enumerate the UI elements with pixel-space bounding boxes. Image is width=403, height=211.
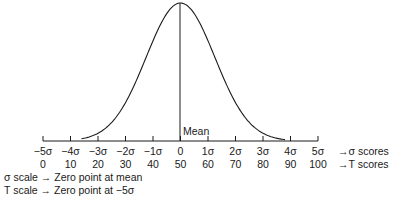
sigma-tick-label: −3σ: [89, 145, 108, 157]
t-tick-label: 20: [92, 158, 104, 170]
sigma-tick-label: −5σ: [34, 145, 53, 157]
t-tick-label: 100: [309, 158, 327, 170]
sigma-tick-label: 5σ: [312, 145, 325, 157]
t-tick-label: 30: [120, 158, 132, 170]
sigma-tick-label: −4σ: [61, 145, 80, 157]
sigma-tick-label: −1σ: [144, 145, 163, 157]
t-axis-label: →T scores: [338, 158, 389, 170]
sigma-tick-label: 2σ: [229, 145, 242, 157]
normal-curve: [82, 3, 286, 140]
t-tick-label: 80: [257, 158, 269, 170]
sigma-tick-label: 1σ: [202, 145, 215, 157]
sigma-tick-label: −2σ: [116, 145, 135, 157]
t-tick-label: 90: [285, 158, 297, 170]
t-tick-label: 60: [202, 158, 214, 170]
sigma-tick-label: 0: [178, 145, 184, 157]
sigma-axis-label: →σ scores: [338, 145, 389, 157]
t-tick-label: 40: [147, 158, 159, 170]
t-tick-label: 50: [175, 158, 187, 170]
sigma-scale-note: σ scale → Zero point at mean: [4, 171, 142, 183]
sigma-tick-label: 3σ: [257, 145, 270, 157]
t-tick-label: 70: [230, 158, 242, 170]
t-tick-label: 0: [40, 158, 46, 170]
t-scale-note: T scale → Zero point at −5σ: [4, 184, 134, 196]
t-tick-label: 10: [65, 158, 77, 170]
sigma-tick-label: 4σ: [284, 145, 297, 157]
mean-label: Mean: [183, 125, 209, 137]
